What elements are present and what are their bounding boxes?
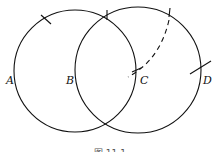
right-circle — [75, 7, 201, 133]
point-label-c: C — [140, 74, 149, 87]
figure-caption: 图 11.1 — [94, 148, 126, 152]
construction-diagram: A B C D 图 11.1 — [0, 0, 216, 152]
dashed-arc — [128, 20, 169, 77]
point-label-a: A — [5, 74, 14, 87]
point-label-b: B — [65, 74, 74, 87]
point-label-d: D — [202, 74, 212, 87]
